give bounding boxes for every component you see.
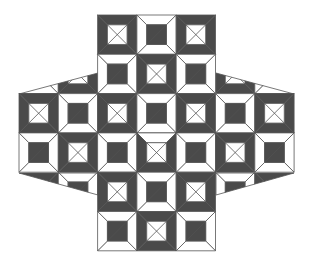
tile-A-r5c3	[137, 212, 176, 251]
tile-net-svg	[0, 0, 311, 269]
bevel-bottom	[255, 202, 294, 212]
tiles-layer	[19, 15, 294, 251]
tile-B-r1c2	[98, 54, 137, 93]
tile-A-r2c0	[19, 94, 58, 133]
tile-B-r3c2	[98, 133, 137, 172]
tile-B-r5c2	[98, 212, 137, 251]
tile-B-r4c5	[216, 172, 255, 211]
tile-A-r4c4	[176, 172, 215, 211]
tile-X-r3c3	[137, 133, 176, 172]
tile-A-r4c2	[98, 172, 137, 211]
diagonal-line	[265, 64, 285, 84]
tile-A-r0c2	[98, 15, 137, 54]
tile-B-r4c1	[58, 172, 97, 211]
top-left-flap	[19, 54, 98, 93]
tile-B-r5c4	[176, 212, 215, 251]
tile-B-r1c4	[176, 54, 215, 93]
top-right-flap	[216, 54, 295, 93]
tile-net-figure	[0, 0, 311, 269]
tile-B-r0c3	[137, 15, 176, 54]
diagonal-line	[29, 182, 49, 202]
tile-A-r1c5	[216, 54, 255, 93]
tile-B-r3c6	[255, 133, 294, 172]
tile-B-r2c5	[216, 94, 255, 133]
inner-square	[29, 64, 49, 84]
tile-A-r1c1	[58, 54, 97, 93]
diagonal-line	[265, 182, 285, 202]
inner-square	[29, 182, 49, 202]
tile-B-r1c0	[19, 54, 58, 93]
tile-A-r2c4	[176, 94, 215, 133]
tile-B-r3c0	[19, 133, 58, 172]
bevel-right	[284, 172, 294, 211]
tile-B-r1c6	[255, 54, 294, 93]
bevel-bottom	[58, 202, 97, 212]
diagonal-line	[265, 182, 285, 202]
inner-square	[265, 64, 285, 84]
tile-B-r2c1	[58, 94, 97, 133]
tile-A-r3c1	[58, 133, 97, 172]
bevel-top	[216, 54, 255, 64]
tile-A-r3c5	[216, 133, 255, 172]
tile-B-r2c3	[137, 94, 176, 133]
tile-A-r0c4	[176, 15, 215, 54]
tile-B-r3c4	[176, 133, 215, 172]
tile-A-r1c3	[137, 54, 176, 93]
diagonal-line	[29, 182, 49, 202]
bevel-top	[58, 54, 97, 64]
tile-B-r4c3	[137, 172, 176, 211]
tile-A-r2c6	[255, 94, 294, 133]
diagonal-line	[29, 64, 49, 84]
tile-A-r4c6	[255, 172, 294, 211]
bevel-bottom	[19, 202, 58, 212]
bevel-left	[19, 172, 29, 211]
bevel-top	[19, 54, 58, 64]
bevel-bottom	[216, 202, 255, 212]
inner-square	[265, 182, 285, 202]
bevel-top	[255, 54, 294, 64]
bevel-right	[284, 54, 294, 93]
bevel-left	[19, 54, 29, 93]
tile-A-r2c2	[98, 94, 137, 133]
